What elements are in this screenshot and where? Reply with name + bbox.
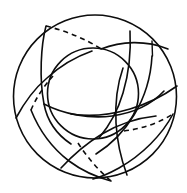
geometric-rosette-figure [0, 0, 187, 193]
figure-canvas [0, 0, 187, 193]
radius-tick-mark [152, 41, 153, 56]
